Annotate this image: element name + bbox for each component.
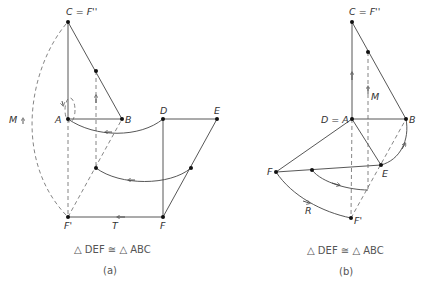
congruence-diagram: C = F'' A B D E F F' M T △ DEF ≅ △ ABC (…	[0, 0, 423, 286]
curve-mid	[312, 170, 368, 190]
point-d	[161, 117, 165, 121]
label-r: R	[305, 205, 312, 216]
label-e: E	[214, 105, 220, 116]
point-f	[161, 215, 165, 219]
statement-b: △ DEF ≅ △ ABC	[307, 245, 384, 256]
caption-a: (a)	[103, 265, 117, 276]
label-f-prime: F'	[64, 220, 72, 231]
segment-fe	[276, 165, 381, 172]
curve-e-to-b	[381, 119, 407, 165]
point-f-prime	[66, 215, 70, 219]
point-mid-cb	[366, 50, 370, 54]
label-c: C = F''	[349, 6, 380, 17]
point-mid-fe	[310, 168, 314, 172]
label-f: F	[160, 220, 166, 231]
label-m: M	[371, 91, 379, 102]
segment-df	[276, 119, 352, 172]
statement-a: △ DEF ≅ △ ABC	[74, 244, 151, 255]
label-e: E	[382, 168, 388, 179]
label-c: C = F''	[66, 6, 97, 17]
caption-b: (b)	[339, 266, 353, 277]
point-e	[215, 117, 219, 121]
image-segment-af	[351, 119, 352, 218]
point-c	[66, 20, 70, 24]
label-a: A	[54, 114, 62, 125]
panel-b: C = F'' D = A B E F F' M R △ DEF ≅ △ ABC…	[267, 6, 416, 277]
segment-cb	[352, 22, 406, 119]
point-mid-image	[94, 166, 98, 170]
point-b	[404, 117, 408, 121]
label-f: F	[267, 166, 273, 177]
point-mid-cb	[94, 69, 98, 73]
label-b: B	[125, 114, 132, 125]
image-segment-fb	[351, 119, 406, 218]
label-f-prime: F'	[354, 215, 362, 226]
label-d-equals-a: D = A	[321, 114, 349, 125]
point-f	[274, 170, 278, 174]
point-e	[379, 163, 383, 167]
segment-de	[352, 119, 381, 165]
point-c	[350, 20, 354, 24]
label-t: T	[112, 220, 119, 231]
reflection-arc-r	[276, 172, 351, 218]
point-b	[120, 117, 124, 121]
arrow-down-icon	[62, 101, 63, 105]
curve-mid	[96, 168, 191, 182]
point-f-prime	[349, 216, 353, 220]
point-mid-fe	[189, 166, 193, 170]
point-a	[66, 117, 70, 121]
label-b: B	[409, 114, 416, 125]
label-m: M	[9, 114, 17, 125]
point-a	[350, 117, 354, 121]
panel-a: C = F'' A B D E F F' M T △ DEF ≅ △ ABC (…	[9, 6, 220, 276]
label-d: D	[160, 105, 167, 116]
